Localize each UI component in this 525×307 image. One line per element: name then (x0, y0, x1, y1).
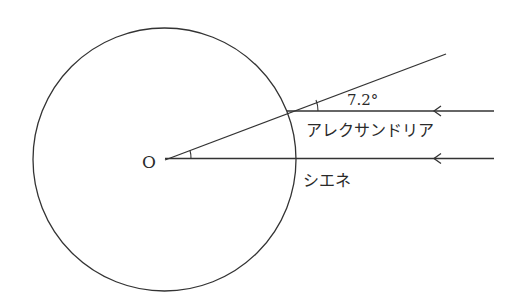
angle-arc-alexandria (316, 100, 318, 111)
center-label: O (142, 152, 156, 172)
syene-label: シエネ (303, 171, 351, 190)
angle-label: 7.2° (347, 91, 378, 109)
eratosthenes-diagram: O 7.2° アレクサンドリア シエネ (0, 0, 525, 307)
angle-arc-center (190, 151, 191, 159)
radius-line-alexandria (165, 54, 446, 160)
alexandria-label: アレクサンドリア (306, 121, 434, 140)
earth-circle (33, 28, 296, 291)
